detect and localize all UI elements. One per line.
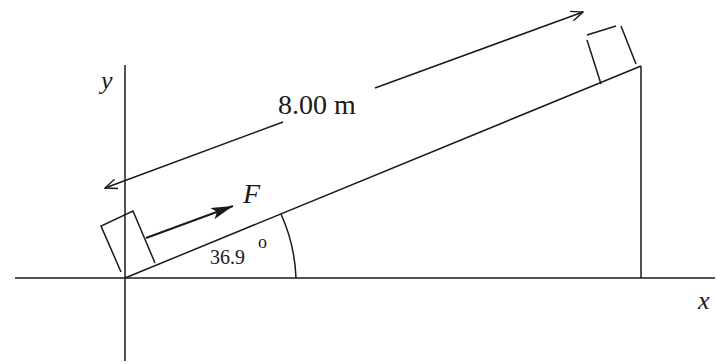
angle-arc: [281, 214, 296, 278]
angle-degree-symbol: o: [258, 232, 267, 253]
block-bottom: [101, 211, 155, 272]
block-top: [587, 26, 636, 84]
incline-diagram: [0, 0, 717, 364]
incline-surface: [125, 66, 641, 278]
angle-value-label: 36.9: [210, 246, 245, 269]
force-label: F: [243, 178, 260, 210]
y-axis-label: y: [101, 66, 113, 96]
x-axis-label: x: [698, 286, 710, 316]
distance-arrow-upper: [375, 12, 583, 88]
force-arrow: [146, 206, 233, 238]
distance-label: 8.00 m: [278, 89, 356, 121]
